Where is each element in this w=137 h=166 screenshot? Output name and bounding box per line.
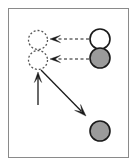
node-layer [29, 29, 111, 141]
diagonal-arrow-shaft [41, 70, 81, 111]
white-circle [90, 29, 110, 49]
dashed-arrow-bottom [50, 55, 89, 62]
figure-graphics [0, 0, 137, 166]
gray-circle-lower [90, 121, 110, 141]
dashed-arrow-top [50, 35, 89, 42]
diagonal-arrow [41, 70, 86, 116]
dashed-circle-top [29, 31, 48, 50]
dashed-circle-bottom [29, 51, 48, 70]
gray-circle-upper [90, 48, 110, 68]
upward-arrow [34, 72, 41, 105]
figure-canvas [0, 0, 137, 166]
